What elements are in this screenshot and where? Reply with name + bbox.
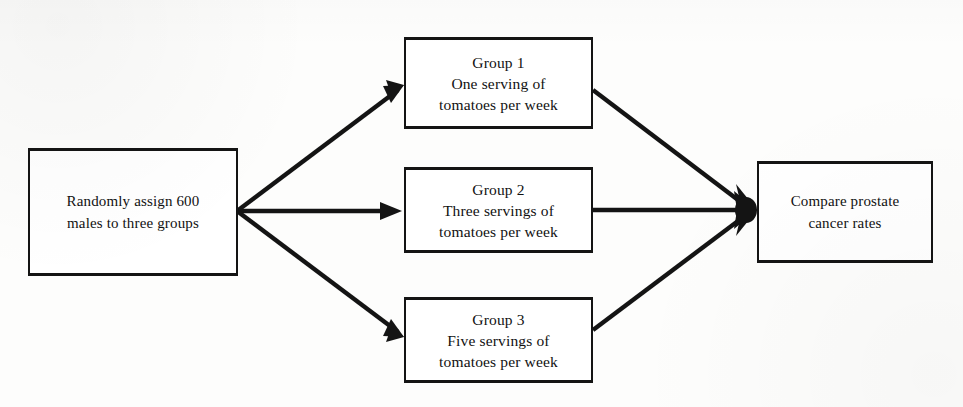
node-group-1-label: Group 1 One serving of tomatoes per week xyxy=(433,52,564,115)
diagram-canvas: Randomly assign 600 males to three group… xyxy=(0,0,963,407)
node-group-3: Group 3 Five servings of tomatoes per we… xyxy=(404,297,593,383)
connector-source-to-group-1 xyxy=(237,80,404,211)
connector-source-to-group-3 xyxy=(237,211,404,342)
convergence-arrowhead-icon xyxy=(734,184,757,236)
node-group-3-label: Group 3 Five servings of tomatoes per we… xyxy=(433,309,564,372)
node-group-2: Group 2 Three servings of tomatoes per w… xyxy=(404,167,593,253)
connector-source-to-group-2 xyxy=(237,202,402,220)
node-group-2-label: Group 2 Three servings of tomatoes per w… xyxy=(433,179,564,242)
node-outcome: Compare prostate cancer rates xyxy=(757,161,933,263)
connector-group-1-to-outcome xyxy=(593,90,746,206)
node-outcome-label: Compare prostate cancer rates xyxy=(785,190,906,234)
connector-group-3-to-outcome xyxy=(593,215,746,330)
node-source: Randomly assign 600 males to three group… xyxy=(28,148,238,276)
node-group-1: Group 1 One serving of tomatoes per week xyxy=(404,37,593,129)
node-source-label: Randomly assign 600 males to three group… xyxy=(61,190,206,234)
